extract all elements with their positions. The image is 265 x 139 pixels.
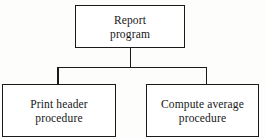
node-compute-average-procedure-label: Compute average procedure bbox=[159, 97, 246, 125]
node-report-program-label: Report program bbox=[108, 13, 152, 41]
connector-drop-to-compute-average bbox=[206, 67, 208, 85]
connector-drop-to-print-header bbox=[57, 67, 59, 85]
node-print-header-procedure-label: Print header procedure bbox=[28, 97, 90, 125]
node-report-program: Report program bbox=[75, 5, 185, 48]
connector-root-stem bbox=[130, 48, 132, 67]
node-print-header-procedure: Print header procedure bbox=[2, 84, 116, 137]
node-compute-average-procedure: Compute average procedure bbox=[146, 84, 259, 137]
structure-chart-diagram: Report program Print header procedure Co… bbox=[0, 0, 265, 139]
connector-crossbar bbox=[57, 67, 207, 69]
